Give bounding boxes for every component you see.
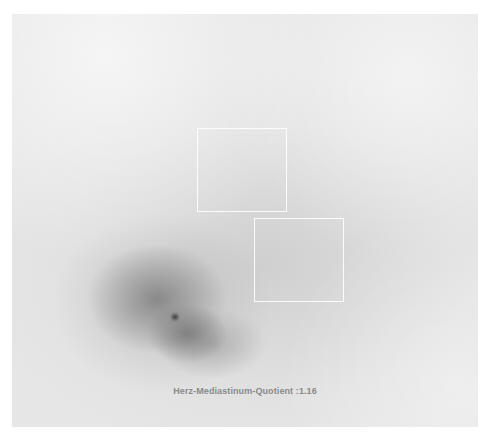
scan-image: [12, 14, 478, 427]
roi-box-mediastinum: [254, 218, 344, 302]
hm-ratio-label: Herz-Mediastinum-Quotient :1.16: [12, 386, 478, 396]
roi-box-heart: [197, 128, 287, 212]
uptake-hotspot: [172, 314, 178, 320]
